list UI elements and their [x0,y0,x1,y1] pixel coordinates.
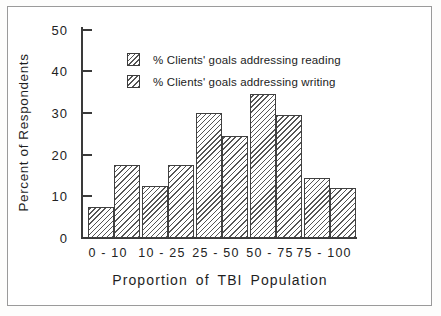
bar-reading-25-50[interactable] [196,113,222,238]
bar-writing-10-25[interactable] [168,165,194,238]
legend-label-reading: % Clients' goals addressing reading [153,54,341,66]
figure-container: Percent of Respondents 50 40 30 20 10 0 … [0,0,441,316]
bar-reading-50-75[interactable] [250,94,276,238]
y-tick-label-10: 10 [34,189,68,204]
bar-writing-0-10[interactable] [114,165,140,238]
bar-reading-0-10[interactable] [88,207,114,238]
bar-reading-10-25[interactable] [142,186,168,238]
y-tick-label-20: 20 [34,148,68,163]
bar-reading-75-100[interactable] [304,178,330,238]
bar-writing-25-50[interactable] [222,136,248,238]
bar-writing-50-75[interactable] [276,115,302,238]
x-tick-label-75-100: 75 - 100 [292,246,356,260]
y-tick-label-40: 40 [34,64,68,79]
y-tick-label-0: 0 [34,231,68,246]
legend-swatch-writing-icon [127,75,140,88]
y-tick-label-50: 50 [34,23,68,38]
legend-item-writing[interactable]: % Clients' goals addressing writing [127,72,387,91]
bar-writing-75-100[interactable] [330,188,356,238]
y-tick-label-30: 30 [34,106,68,121]
legend-swatch-reading-icon [127,53,140,66]
legend-item-reading[interactable]: % Clients' goals addressing reading [127,50,387,69]
x-axis-title: Proportion of TBI Population [60,272,380,288]
legend-label-writing: % Clients' goals addressing writing [153,76,336,88]
y-axis-tick-labels: 50 40 30 20 10 0 [28,0,68,316]
chart-legend: % Clients' goals addressing reading % Cl… [127,50,387,94]
